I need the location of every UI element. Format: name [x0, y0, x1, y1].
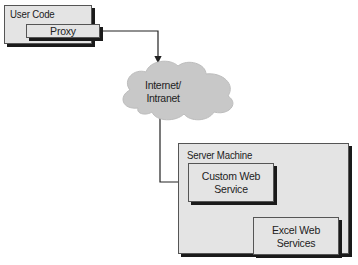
cloud-label-line1: Internet/: [140, 79, 186, 92]
proxy-label: Proxy: [27, 25, 99, 38]
custom-web-service-box: Custom Web Service: [188, 163, 274, 202]
custom-web-service-line2: Service: [189, 183, 273, 196]
custom-web-service-line1: Custom Web: [189, 170, 273, 183]
user-code-label: User Code: [10, 8, 55, 20]
cloud-label-line2: Intranet: [140, 92, 186, 105]
cloud-label: Internet/ Intranet: [140, 79, 186, 105]
excel-web-services-label: Excel Web Services: [254, 224, 338, 250]
excel-web-services-box: Excel Web Services: [253, 217, 339, 255]
custom-web-service-label: Custom Web Service: [189, 170, 273, 196]
excel-web-services-line1: Excel Web: [254, 224, 338, 237]
excel-web-services-line2: Services: [254, 237, 338, 250]
server-machine-label: Server Machine: [187, 149, 252, 161]
proxy-box: Proxy: [26, 24, 100, 38]
edge-proxy-to-cloud: [100, 31, 158, 62]
